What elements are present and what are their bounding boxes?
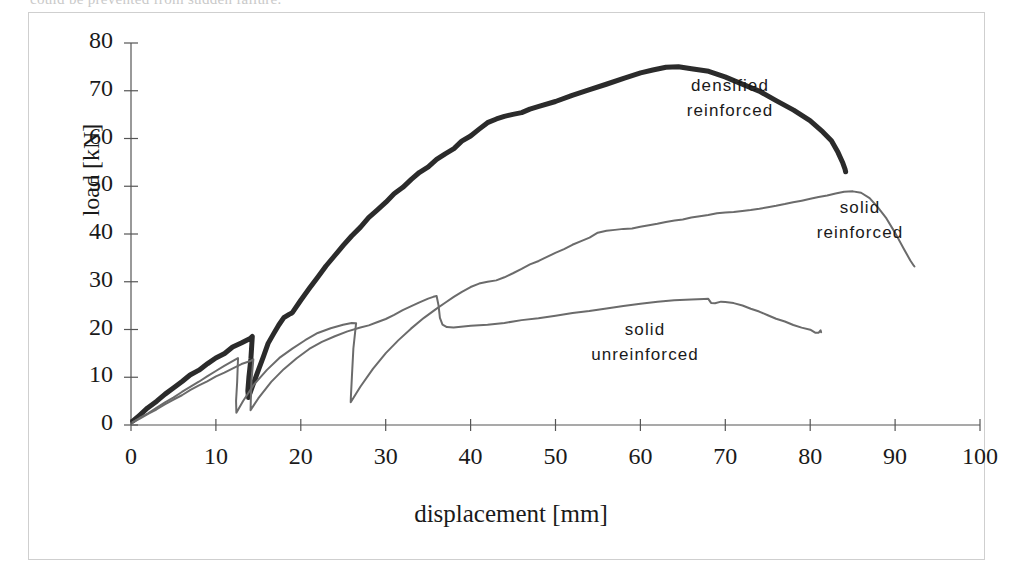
- y-tick-label: 80: [53, 27, 113, 54]
- series-annotation-line2: unreinforced: [591, 343, 699, 368]
- y-tick-label: 40: [53, 218, 113, 245]
- y-tick-label: 50: [53, 170, 113, 197]
- series-annotation-solid-unreinforced: solidunreinforced: [591, 318, 699, 367]
- y-tick-label: 70: [53, 75, 113, 102]
- figure-container: could be prevented from sudden failure. …: [0, 0, 1022, 580]
- x-tick-label: 60: [610, 443, 670, 470]
- y-tick-label: 20: [53, 314, 113, 341]
- cut-off-caption-text: could be prevented from sudden failure.: [30, 0, 930, 7]
- series-annotation-line2: reinforced: [687, 99, 774, 124]
- series-annotation-line1: densified: [687, 74, 774, 99]
- x-tick-label: 10: [186, 443, 246, 470]
- x-tick-label: 40: [441, 443, 501, 470]
- series-annotation-line1: solid: [591, 318, 699, 343]
- y-tick-label: 10: [53, 361, 113, 388]
- series-annotation-densified-reinforced: densifiedreinforced: [687, 74, 774, 123]
- y-tick-label: 60: [53, 123, 113, 150]
- x-tick-label: 100: [950, 443, 1010, 470]
- x-tick-label: 30: [356, 443, 416, 470]
- x-tick-label: 70: [695, 443, 755, 470]
- figure-frame: [28, 12, 985, 560]
- series-annotation-line1: solid: [817, 196, 904, 221]
- x-axis-label: displacement [mm]: [0, 500, 1022, 528]
- series-annotation-line2: reinforced: [817, 221, 904, 246]
- y-tick-label: 0: [53, 409, 113, 436]
- y-tick-label: 30: [53, 266, 113, 293]
- x-tick-label: 90: [865, 443, 925, 470]
- x-tick-label: 0: [101, 443, 161, 470]
- x-tick-label: 50: [526, 443, 586, 470]
- series-annotation-solid-reinforced: solidreinforced: [817, 196, 904, 245]
- x-tick-label: 80: [780, 443, 840, 470]
- x-tick-label: 20: [271, 443, 331, 470]
